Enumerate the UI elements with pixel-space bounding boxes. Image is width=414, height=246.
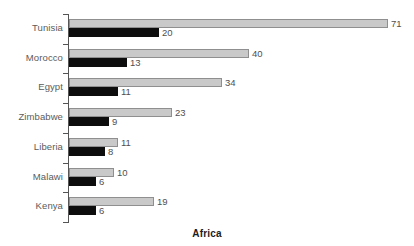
bar-egypt-b [69, 87, 118, 96]
bar-morocco-a [69, 49, 249, 58]
bar-value-label: 20 [162, 28, 173, 37]
axis-tick [63, 133, 69, 134]
bar-value-label: 6 [99, 177, 104, 186]
bar-group: 239 [69, 108, 414, 126]
axis-tick [63, 163, 69, 164]
bar-value-label: 10 [117, 168, 128, 177]
category-label-liberia: Liberia [0, 141, 63, 152]
bar-chart: TunisiaMoroccoEgyptZimbabweLiberiaMalawi… [0, 0, 414, 246]
axis-tick [63, 222, 69, 223]
bar-kenya-a [69, 197, 154, 206]
bar-tunisia-b [69, 28, 159, 37]
bar-value-label: 6 [99, 206, 104, 215]
category-label-morocco: Morocco [0, 52, 63, 63]
bar-zimbabwe-a [69, 108, 172, 117]
category-label-tunisia: Tunisia [0, 22, 63, 33]
bar-value-label: 40 [252, 49, 263, 58]
bar-zimbabwe-b [69, 117, 109, 126]
bar-group: 196 [69, 197, 414, 215]
bar-group: 4013 [69, 49, 414, 67]
chart-caption: Africa [0, 228, 414, 239]
axis-tick [63, 192, 69, 193]
axis-tick [63, 14, 69, 15]
bar-group: 106 [69, 168, 414, 186]
bar-egypt-a [69, 78, 222, 87]
axis-tick [63, 103, 69, 104]
plot-area: 712040133411239118106196 [69, 14, 414, 222]
bar-group: 3411 [69, 78, 414, 96]
bar-value-label: 34 [225, 78, 236, 87]
bar-value-label: 71 [391, 19, 402, 28]
bar-kenya-b [69, 206, 96, 215]
bar-value-label: 13 [130, 58, 141, 67]
bar-value-label: 23 [175, 108, 186, 117]
axis-tick [63, 44, 69, 45]
axis-tick [63, 73, 69, 74]
bar-value-label: 8 [108, 147, 113, 156]
bar-tunisia-a [69, 19, 388, 28]
category-label-zimbabwe: Zimbabwe [0, 111, 63, 122]
bar-value-label: 11 [121, 138, 131, 147]
category-label-kenya: Kenya [0, 200, 63, 211]
bar-liberia-b [69, 147, 105, 156]
bar-morocco-b [69, 58, 127, 67]
bar-value-label: 19 [157, 197, 168, 206]
bar-malawi-a [69, 168, 114, 177]
bar-malawi-b [69, 177, 96, 186]
category-label-egypt: Egypt [0, 81, 63, 92]
bar-group: 7120 [69, 19, 414, 37]
category-label-malawi: Malawi [0, 171, 63, 182]
bar-value-label: 9 [112, 117, 117, 126]
bar-group: 118 [69, 138, 414, 156]
category-axis-labels: TunisiaMoroccoEgyptZimbabweLiberiaMalawi… [0, 14, 63, 222]
bar-value-label: 11 [121, 87, 131, 96]
